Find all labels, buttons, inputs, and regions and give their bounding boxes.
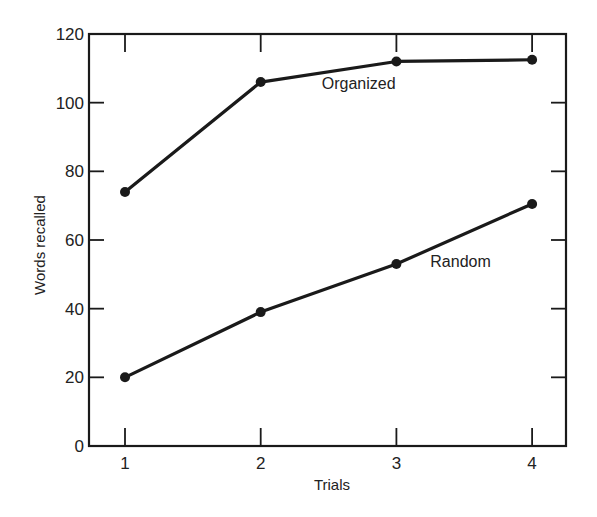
- plot-frame: [89, 34, 566, 446]
- series-random: [120, 199, 537, 382]
- data-point-organized: [391, 56, 401, 66]
- x-tick-label: 2: [256, 454, 265, 473]
- series-line-random: [125, 204, 532, 377]
- data-point-organized: [256, 77, 266, 87]
- data-point-random: [120, 372, 130, 382]
- y-axis-title: Words recalled: [31, 195, 48, 295]
- y-tick-label: 120: [56, 25, 84, 44]
- y-axis-tick-labels: 020406080100120: [56, 25, 84, 456]
- x-tick-label: 3: [392, 454, 401, 473]
- axis-ticks: [89, 34, 566, 446]
- data-series: [120, 55, 537, 383]
- data-point-random: [527, 199, 537, 209]
- y-tick-label: 40: [65, 300, 84, 319]
- y-tick-label: 60: [65, 231, 84, 250]
- series-labels: OrganizedRandom: [322, 75, 491, 271]
- x-axis-title: Trials: [314, 476, 350, 493]
- data-point-organized: [120, 187, 130, 197]
- y-tick-label: 0: [75, 437, 84, 456]
- x-tick-label: 1: [120, 454, 129, 473]
- line-chart: 020406080100120 1234 OrganizedRandom Tri…: [0, 0, 597, 517]
- y-tick-label: 20: [65, 368, 84, 387]
- series-label-random: Random: [430, 253, 490, 270]
- y-tick-label: 80: [65, 162, 84, 181]
- series-label-organized: Organized: [322, 75, 396, 92]
- plot-border: [89, 34, 566, 446]
- data-point-random: [391, 259, 401, 269]
- x-axis-tick-labels: 1234: [120, 454, 537, 473]
- data-point-organized: [527, 55, 537, 65]
- y-tick-label: 100: [56, 94, 84, 113]
- x-tick-label: 4: [527, 454, 536, 473]
- data-point-random: [256, 307, 266, 317]
